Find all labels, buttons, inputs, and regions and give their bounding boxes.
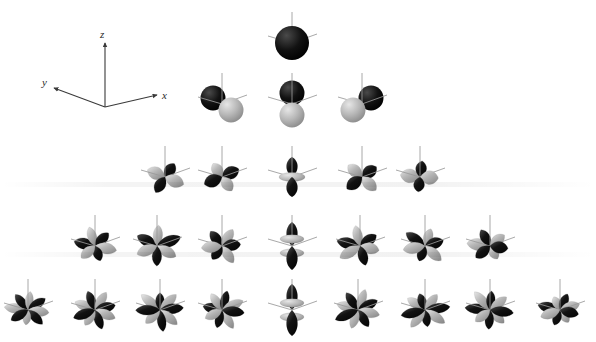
orbital-d-z2: [255, 140, 329, 214]
orbital-f-5: [323, 209, 397, 283]
axis-line-x: [105, 95, 157, 107]
axis-label-z: z: [99, 28, 105, 40]
orbital-d-yz: [185, 140, 259, 214]
axis-label-y: y: [41, 76, 47, 88]
orbital-f-7: [453, 209, 527, 283]
orbital-g-7: [388, 273, 462, 342]
orbital-f-3: [185, 209, 259, 283]
orbital-d-x2-y2: [383, 140, 457, 214]
orbital-g-4: [185, 273, 259, 342]
orbital-g-2: [58, 273, 132, 342]
orbital-f-4: [255, 209, 329, 283]
orbital-f-6: [388, 209, 462, 283]
orbital-p-z: [255, 67, 329, 141]
axis-line-y: [54, 88, 105, 107]
orbital-p-x: [185, 67, 259, 141]
orbital-g-8: [453, 273, 527, 342]
orbital-chart-figure: z x y: [0, 0, 596, 342]
orbital-f-2: [120, 209, 194, 283]
coordinate-axes-legend: z x y: [38, 22, 178, 117]
orbital-g-6: [321, 273, 395, 342]
orbital-g-5: [255, 273, 329, 342]
axis-label-x: x: [161, 89, 167, 101]
orbital-g-1: [0, 273, 65, 342]
orbital-p-y: [325, 67, 399, 141]
orbital-g-9: [523, 273, 596, 342]
